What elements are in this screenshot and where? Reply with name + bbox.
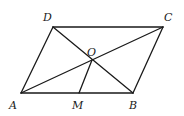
labels: A B C D O M xyxy=(8,11,173,112)
label-O: O xyxy=(87,46,96,59)
segment-BD xyxy=(53,27,133,93)
segments xyxy=(21,27,163,93)
label-B: B xyxy=(128,99,137,112)
label-A: A xyxy=(8,99,17,112)
parallelogram-diagram: A B C D O M xyxy=(0,0,184,116)
label-D: D xyxy=(42,11,52,24)
label-C: C xyxy=(164,11,173,24)
label-M: M xyxy=(71,99,84,112)
segment-DA xyxy=(21,27,53,93)
segment-BC xyxy=(133,27,163,93)
